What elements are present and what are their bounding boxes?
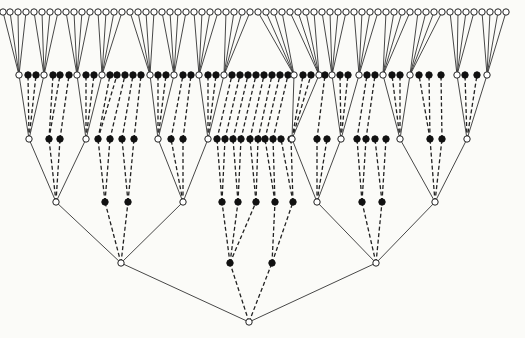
- dashed-edge: [467, 75, 477, 139]
- dashed-edge: [171, 75, 183, 139]
- filled-node: [138, 72, 144, 78]
- solid-edge: [18, 12, 19, 75]
- filled-node: [219, 199, 225, 205]
- open-node: [99, 72, 105, 78]
- open-node: [15, 9, 21, 15]
- open-node: [167, 9, 173, 15]
- open-node: [314, 199, 320, 205]
- solid-edge: [292, 75, 319, 139]
- open-node: [147, 72, 153, 78]
- dashed-edge: [128, 139, 134, 202]
- dashed-edge: [60, 75, 69, 139]
- open-node: [391, 9, 397, 15]
- dashed-edge: [430, 139, 435, 202]
- filled-node: [245, 72, 251, 78]
- open-node: [351, 9, 357, 15]
- dashed-edge: [273, 75, 288, 139]
- solid-edge: [19, 12, 26, 75]
- filled-node: [379, 199, 385, 205]
- dashed-edge: [217, 75, 232, 139]
- open-node: [263, 9, 269, 15]
- filled-node: [180, 136, 186, 142]
- solid-edge: [199, 75, 208, 139]
- solid-edge: [400, 139, 435, 202]
- open-node: [484, 72, 490, 78]
- filled-node: [372, 72, 378, 78]
- dashed-edge: [98, 75, 117, 139]
- open-node: [303, 9, 309, 15]
- solid-edge: [56, 139, 86, 202]
- open-node: [151, 9, 157, 15]
- dashed-edge: [122, 139, 128, 202]
- filled-node: [155, 72, 161, 78]
- filled-node: [389, 72, 395, 78]
- open-node: [247, 9, 253, 15]
- dashed-edge: [222, 139, 225, 202]
- solid-edge: [121, 202, 183, 263]
- dashed-edge: [49, 75, 60, 139]
- open-node: [399, 9, 405, 15]
- solid-edge: [410, 12, 426, 75]
- solid-edge: [194, 12, 199, 75]
- solid-edge: [410, 12, 442, 75]
- open-node: [16, 72, 22, 78]
- filled-node: [255, 136, 261, 142]
- open-node: [454, 72, 460, 78]
- open-node: [23, 9, 29, 15]
- dashed-edge: [56, 139, 60, 202]
- dashed-edge: [86, 75, 94, 139]
- open-node: [423, 9, 429, 15]
- filled-node: [57, 136, 63, 142]
- open-node: [39, 9, 45, 15]
- filled-node: [439, 136, 445, 142]
- open-node: [291, 72, 297, 78]
- solid-edge: [298, 12, 319, 75]
- filled-node: [269, 260, 275, 266]
- filled-node: [107, 72, 113, 78]
- open-node: [495, 9, 501, 15]
- solid-edge: [77, 12, 90, 75]
- filled-node: [188, 72, 194, 78]
- open-node: [415, 9, 421, 15]
- open-node: [143, 9, 149, 15]
- open-node: [196, 72, 202, 78]
- open-node: [111, 9, 117, 15]
- open-node: [155, 136, 161, 142]
- solid-edge: [150, 12, 154, 75]
- filled-node: [130, 72, 136, 78]
- dashed-edge: [225, 75, 240, 139]
- open-node: [479, 9, 485, 15]
- solid-edge: [457, 12, 466, 75]
- filled-node: [168, 136, 174, 142]
- filled-node: [314, 136, 320, 142]
- open-node: [289, 136, 295, 142]
- open-node: [380, 72, 386, 78]
- dashed-edge: [217, 139, 222, 202]
- filled-node: [300, 72, 306, 78]
- filled-node: [95, 136, 101, 142]
- solid-edge: [158, 139, 183, 202]
- dashed-edge: [238, 139, 241, 202]
- filled-node: [33, 72, 39, 78]
- dashed-edge: [233, 75, 248, 139]
- solid-edge: [56, 202, 121, 263]
- filled-node: [25, 72, 31, 78]
- filled-node: [57, 72, 63, 78]
- open-node: [319, 9, 325, 15]
- open-node: [26, 136, 32, 142]
- open-node: [159, 9, 165, 15]
- open-node: [74, 72, 80, 78]
- dashed-edge: [29, 75, 36, 139]
- filled-node: [270, 136, 276, 142]
- filled-node: [131, 136, 137, 142]
- open-node: [439, 9, 445, 15]
- open-node: [407, 9, 413, 15]
- open-node: [367, 9, 373, 15]
- solid-edge: [400, 75, 410, 139]
- tree-diagram: [0, 0, 525, 338]
- solid-edge: [29, 139, 56, 202]
- open-node: [103, 9, 109, 15]
- open-node: [71, 9, 77, 15]
- open-node: [87, 9, 93, 15]
- dashed-edge: [362, 139, 366, 202]
